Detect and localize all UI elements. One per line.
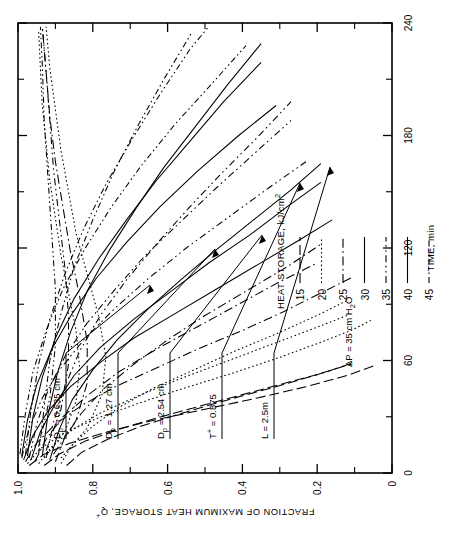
annotation-leader (222, 183, 300, 353)
y-tick-label: 1.0 (13, 481, 24, 495)
y-tick-label: 0.4 (237, 481, 248, 495)
legend-label: 40 (403, 289, 414, 301)
data-curve (27, 319, 373, 463)
figure-root: 06012018024000.20.40.60.81.0TIME, minFRA… (0, 0, 475, 535)
x-tick-label: 120 (403, 239, 414, 256)
data-curve (29, 366, 373, 465)
annotation-arrowhead (259, 235, 266, 244)
x-tick-label: 0 (403, 470, 414, 476)
annotation-label: Dp = 2.54 cm (155, 383, 169, 439)
x-tick-label: 180 (403, 127, 414, 144)
y-tick-label: 0.2 (312, 481, 323, 495)
data-curve (46, 102, 291, 458)
x-tick-label: 240 (403, 14, 414, 31)
annotation-label: Dp = 1.27 cm (103, 383, 117, 439)
x-tick-label: 60 (403, 355, 414, 367)
annotation-label: T+ = 0.875 (205, 394, 218, 439)
annotation-leader (118, 249, 215, 353)
annotation-label: L = 2.5m (259, 402, 270, 439)
chart-svg: 06012018024000.20.40.60.81.0TIME, minFRA… (0, 0, 475, 535)
data-curve (61, 301, 347, 464)
x-axis-label: TIME, min (425, 225, 436, 272)
annotation-arrowhead (327, 167, 334, 176)
y-axis-label: FRACTION OF MAXIMUM HEAT STORAGE, Q+ (96, 507, 315, 519)
plot-frame (18, 23, 392, 473)
data-curve (27, 62, 261, 456)
rotated-figure-canvas: 06012018024000.20.40.60.81.0TIME, minFRA… (0, 0, 475, 535)
legend-label: 30 (360, 289, 371, 301)
data-curve (44, 364, 351, 465)
y-tick-label: 0.6 (163, 481, 174, 495)
legend-label: 20 (317, 289, 328, 301)
legend-label: 45 (424, 289, 435, 301)
legend-label: 25 (338, 289, 349, 301)
legend-label: 15 (295, 289, 306, 301)
legend-title: HEAT STORAGE, kJ/cm2 (273, 193, 286, 309)
y-tick-label: 0.8 (88, 481, 99, 495)
delta-p-annotation: ΔP = 35 cm H2O (343, 297, 357, 367)
legend-label: 35 (381, 289, 392, 301)
y-tick-label: 0 (387, 481, 398, 487)
